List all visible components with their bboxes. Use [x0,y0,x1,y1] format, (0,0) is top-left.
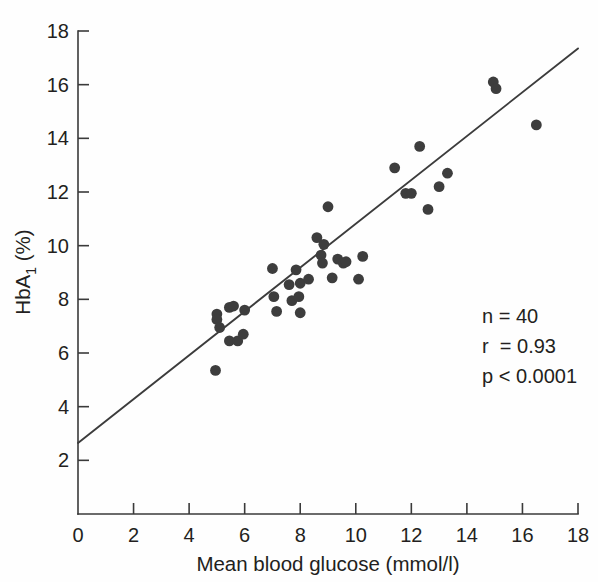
statistics-annotation: n = 40r = 0.93p < 0.0001 [482,305,577,387]
y-tick-label: 4 [58,396,69,418]
data-point [423,204,434,215]
x-axis-ticks: 024681012141618 [72,503,589,546]
annotation-line: n = 40 [482,305,538,327]
data-point [353,274,364,285]
data-point [389,162,400,173]
plot-canvas: 24681012141618 024681012141618 Mean bloo… [0,0,598,582]
data-point [238,329,249,340]
data-point [291,264,302,275]
y-tick-label: 8 [58,288,69,310]
data-point [271,306,282,317]
data-point [406,188,417,199]
data-point [327,272,338,283]
data-point [284,279,295,290]
x-tick-label: 10 [345,524,367,546]
data-point [357,251,368,262]
x-axis-title: Mean blood glucose (mmol/l) [196,552,459,575]
data-point [268,291,279,302]
scatter-plot-figure: 24681012141618 024681012141618 Mean bloo… [0,0,598,582]
x-tick-label: 12 [400,524,422,546]
data-point [267,263,278,274]
data-point [341,256,352,267]
x-tick-label: 16 [511,524,533,546]
data-points [210,77,542,376]
x-tick-label: 18 [567,524,589,546]
axes [78,31,578,514]
annotation-line: p < 0.0001 [482,365,577,387]
data-point [210,365,221,376]
y-axis-title-text: HbA1 (%) [11,229,39,314]
y-tick-label: 18 [47,20,69,42]
data-point [317,258,328,269]
data-point [531,120,542,131]
y-axis-title-unit: (%) [11,229,34,267]
annotation-line: r = 0.93 [482,335,556,357]
x-tick-label: 8 [295,524,306,546]
y-axis-title: HbA1 (%) [11,229,39,314]
data-point [434,181,445,192]
y-axis-title-main: HbA [11,274,34,314]
data-point [303,274,314,285]
x-tick-label: 6 [239,524,250,546]
y-tick-label: 6 [58,342,69,364]
data-point [293,291,304,302]
data-point [442,168,453,179]
x-tick-label: 14 [456,524,478,546]
y-tick-label: 12 [47,181,69,203]
y-tick-label: 16 [47,74,69,96]
y-tick-label: 10 [47,235,69,257]
data-point [214,322,225,333]
x-tick-label: 4 [184,524,195,546]
data-point [414,141,425,152]
y-axis-ticks: 24681012141618 [47,20,89,471]
x-tick-label: 2 [128,524,139,546]
y-tick-label: 2 [58,449,69,471]
data-point [323,201,334,212]
data-point [239,305,250,316]
x-axis-title-text: Mean blood glucose (mmol/l) [196,552,459,575]
data-point [295,307,306,318]
y-axis-title-subscript: 1 [23,267,39,275]
x-tick-label: 0 [72,524,83,546]
data-point [491,83,502,94]
data-point [318,239,329,250]
y-tick-label: 14 [47,127,69,149]
data-point [228,301,239,312]
